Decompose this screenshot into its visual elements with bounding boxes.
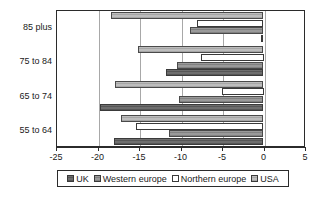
x-axis-tick-label: 0 <box>244 152 284 163</box>
bar-western-europe-65-to-74 <box>179 96 264 103</box>
x-axis-tick <box>56 147 57 151</box>
legend-swatch-icon <box>67 175 74 182</box>
bar-usa-65-to-74 <box>115 81 264 88</box>
bar-northern-europe-55-to-64 <box>136 123 264 130</box>
bar-usa-85-plus <box>111 12 264 19</box>
y-axis-category-label: 75 to 84 <box>0 56 52 66</box>
bar-western-europe-55-to-64 <box>169 130 264 137</box>
x-axis-tick <box>98 147 99 151</box>
legend-label: Northern europe <box>181 174 247 184</box>
legend-item-western-europe[interactable]: Western europe <box>94 174 167 184</box>
legend-label: USA <box>260 174 279 184</box>
x-axis-tick <box>222 147 223 151</box>
x-axis-tick-label: -25 <box>36 152 76 163</box>
bar-northern-europe-65-to-74 <box>222 88 264 95</box>
legend-item-usa[interactable]: USA <box>251 174 279 184</box>
bar-northern-europe-85-plus <box>197 20 263 27</box>
y-axis-category-label: 65 to 74 <box>0 91 52 101</box>
x-axis-tick <box>264 147 265 151</box>
legend-swatch-icon <box>94 175 101 182</box>
bar-uk-75-to-84 <box>166 69 264 76</box>
bar-northern-europe-75-to-84 <box>201 54 263 61</box>
legend-label: UK <box>76 174 89 184</box>
bar-western-europe-75-to-84 <box>177 62 263 69</box>
bar-uk-85-plus <box>261 35 263 42</box>
legend-swatch-icon <box>172 175 179 182</box>
legend-swatch-icon <box>251 175 258 182</box>
chart-figure: 85 plus75 to 8465 to 7455 to 64-25-20-15… <box>0 0 313 198</box>
x-axis-tick <box>181 147 182 151</box>
gridline <box>99 11 100 146</box>
x-axis-tick <box>305 147 306 151</box>
gridline <box>265 11 266 146</box>
x-axis-tick <box>139 147 140 151</box>
legend-label: Western europe <box>103 174 167 184</box>
y-axis-category-label: 85 plus <box>0 22 52 32</box>
chart-legend: UKWestern europeNorthern europeUSA <box>57 170 289 187</box>
x-axis-tick-label: -5 <box>202 152 242 163</box>
x-axis-tick-label: -15 <box>119 152 159 163</box>
bar-uk-65-to-74 <box>100 104 264 111</box>
x-axis-tick-label: 5 <box>285 152 313 163</box>
x-axis-tick-label: -20 <box>78 152 118 163</box>
y-axis-category-label: 55 to 64 <box>0 125 52 135</box>
x-axis-tick-label: -10 <box>161 152 201 163</box>
bar-usa-55-to-64 <box>121 115 264 122</box>
bar-uk-55-to-64 <box>114 138 263 145</box>
bar-usa-75-to-84 <box>138 46 263 53</box>
bar-western-europe-85-plus <box>190 27 263 34</box>
legend-item-uk[interactable]: UK <box>67 174 89 184</box>
legend-item-northern-europe[interactable]: Northern europe <box>172 174 247 184</box>
